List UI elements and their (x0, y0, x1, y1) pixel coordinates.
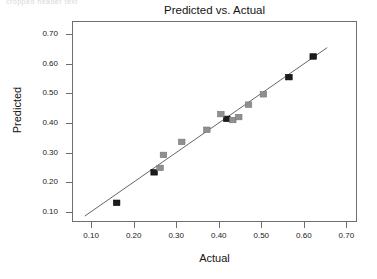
cropped-header-artifact: cropped header text (6, 0, 78, 5)
x-tick-mark (134, 222, 135, 228)
y-tick-mark (66, 123, 72, 124)
x-tick-label: 0.10 (74, 231, 108, 240)
y-tick-mark (66, 93, 72, 94)
data-point-marker (310, 54, 317, 60)
y-tick-label: 0.10 (26, 207, 58, 216)
x-tick-mark (219, 222, 220, 228)
data-point-marker (235, 114, 242, 120)
x-tick-mark (91, 222, 92, 228)
x-tick-mark (261, 222, 262, 228)
data-point-marker (260, 92, 267, 98)
plot-canvas (72, 21, 357, 222)
data-point-marker (224, 116, 231, 122)
data-point-marker (245, 102, 252, 108)
y-tick-mark (66, 212, 72, 213)
data-point-marker (286, 74, 293, 80)
y-tick-label: 0.60 (26, 59, 58, 68)
data-point-marker (151, 170, 158, 176)
data-point-marker (230, 117, 237, 123)
x-tick-label: 0.50 (244, 231, 278, 240)
x-tick-label: 0.60 (287, 231, 321, 240)
x-tick-mark (304, 222, 305, 228)
y-tick-label: 0.50 (26, 88, 58, 97)
y-tick-label: 0.70 (26, 29, 58, 38)
data-point-marker (157, 165, 164, 171)
y-axis-label: Predicted (11, 65, 23, 155)
x-tick-mark (346, 222, 347, 228)
x-tick-label: 0.40 (202, 231, 236, 240)
x-axis-label: Actual (72, 252, 357, 264)
x-tick-mark (176, 222, 177, 228)
data-point-marker (160, 152, 167, 158)
x-tick-label: 0.30 (159, 231, 193, 240)
y-tick-mark (66, 182, 72, 183)
chart-title: Predicted vs. Actual (72, 4, 357, 16)
x-tick-label: 0.70 (329, 231, 363, 240)
y-tick-label: 0.20 (26, 177, 58, 186)
data-point-marker (113, 200, 120, 206)
chart-figure: cropped header text Predicted vs. Actual… (0, 0, 377, 279)
data-series-layer (85, 48, 327, 216)
y-tick-label: 0.40 (26, 118, 58, 127)
y-tick-label: 0.30 (26, 148, 58, 157)
x-tick-label: 0.20 (117, 231, 151, 240)
y-tick-mark (66, 153, 72, 154)
data-point-marker (178, 139, 185, 145)
data-point-marker (218, 111, 225, 117)
data-point-marker (204, 127, 211, 133)
y-tick-mark (66, 64, 72, 65)
y-tick-mark (66, 34, 72, 35)
